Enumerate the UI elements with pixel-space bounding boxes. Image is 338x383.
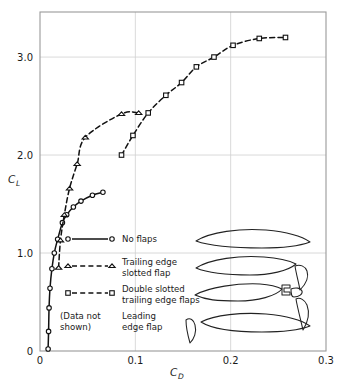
data-point-square [146,111,151,116]
legend-marker-right-square [110,291,115,296]
x-tick-label: 0.3 [318,355,334,366]
data-point-circle [101,190,106,195]
legend-marker-left-circle [66,237,71,242]
y-axis-label: C [8,173,16,185]
x-axis-label-subscript: D [178,372,184,381]
data-point-square [212,55,217,60]
y-tick-label: 2.0 [17,150,33,161]
y-tick-label: 3.0 [17,52,33,63]
y-axis-label-subscript: L [16,179,20,188]
data-point-square [194,65,199,70]
data-point-circle [71,205,76,210]
data-point-circle [52,251,57,256]
data-point-square [164,93,169,98]
data-point-circle [47,306,52,311]
cl-vs-cd-chart: 01.02.03.0 00.10.20.3 C L C D No flapsTr… [0,0,338,383]
x-axis-label: C [170,366,178,378]
data-point-circle [46,347,51,352]
legend-label-line1: No flaps [122,234,158,244]
data-point-circle [50,266,55,271]
legend-marker-left-square [66,291,71,296]
legend-label-line2: edge flap [122,322,162,332]
data-point-square [119,153,124,158]
data-point-circle [46,329,51,334]
data-point-circle [48,286,53,291]
data-point-square [179,80,184,85]
data-point-square [257,36,262,41]
legend-marker-right-circle [110,237,115,242]
data-point-circle [79,199,84,204]
legend-label-line1: Leading [122,311,156,321]
legend-label-line1: Trailing edge [121,257,177,267]
data-point-square [131,133,136,138]
x-tick-label: 0.2 [223,355,239,366]
data-point-circle [90,193,95,198]
x-tick-label: 0 [37,355,43,366]
data-point-square [283,35,288,40]
x-tick-label: 0.1 [127,355,143,366]
data-point-square [231,43,236,48]
legend-label-line2: slotted flap [122,268,170,278]
y-tick-label: 0 [27,346,33,357]
figure-container: 01.02.03.0 00.10.20.3 C L C D No flapsTr… [0,0,338,383]
legend-label-line1: Double slotted [122,284,185,294]
y-tick-label: 1.0 [17,248,33,259]
legend-label-line2: trailing edge flaps [122,295,200,305]
legend-note-line1: (Data not [60,311,101,321]
legend-note-line2: shown) [60,322,91,332]
